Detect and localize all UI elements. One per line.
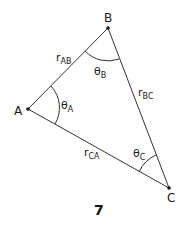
side-label-ab: rAB <box>56 51 72 66</box>
triangle-diagram: A B C rAB rBC rCA θA θB θC 7 <box>0 0 188 237</box>
side-bc-subscript: BC <box>143 92 154 101</box>
angle-label-b: θB <box>94 65 106 80</box>
vertex-dot-a <box>26 107 30 111</box>
side-label-bc: rBC <box>138 86 154 101</box>
figure-caption: 7 <box>94 202 104 218</box>
angle-label-c: θC <box>133 147 146 162</box>
vertex-dot-b <box>106 26 110 30</box>
angle-c-subscript: C <box>140 153 146 162</box>
side-ca <box>28 109 169 188</box>
side-ab-subscript: AB <box>61 57 72 66</box>
vertex-dot-c <box>167 186 171 190</box>
side-bc <box>108 28 169 188</box>
side-ca-subscript: CA <box>89 152 101 161</box>
vertex-label-b: B <box>104 11 112 25</box>
angle-arc-a <box>51 86 59 124</box>
vertex-label-c: C <box>167 191 175 205</box>
angle-arc-b <box>85 51 119 61</box>
vertex-label-a: A <box>14 104 23 118</box>
angle-b-subscript: B <box>101 71 107 80</box>
angle-a-subscript: A <box>68 105 74 114</box>
angle-label-a: θA <box>61 99 74 114</box>
